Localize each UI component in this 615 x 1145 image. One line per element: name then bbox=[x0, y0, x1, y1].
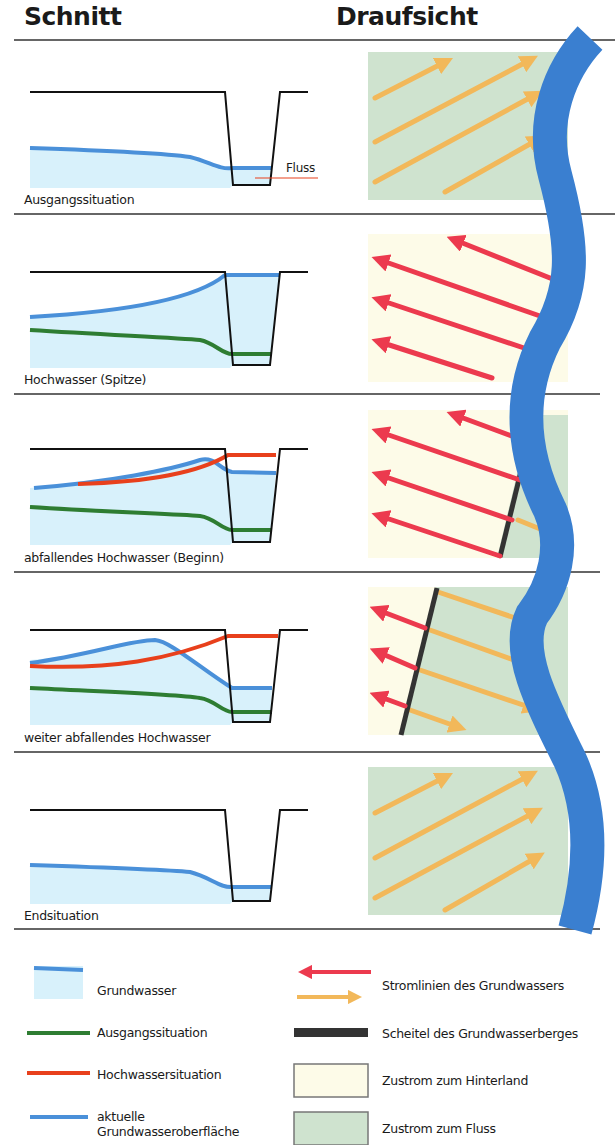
streamline-arrows-icon bbox=[297, 972, 371, 997]
crest-bar-icon bbox=[294, 1028, 368, 1037]
legend-label-hinterland: Zustrom zum Hinterland bbox=[382, 1073, 528, 1088]
groundwater-surface-icon bbox=[34, 968, 83, 970]
river-swatch-icon bbox=[294, 1112, 368, 1145]
legend-label-fluss: Zustrom zum Fluss bbox=[382, 1121, 496, 1136]
hinterland-swatch-icon bbox=[294, 1064, 368, 1097]
legend-label-stromlinien: Stromlinien des Grundwassers bbox=[382, 978, 564, 993]
caption-panel-1: Ausgangssituation bbox=[24, 192, 134, 207]
caption-panel-3: abfallendes Hochwasser (Beginn) bbox=[24, 550, 224, 565]
section-panel-5 bbox=[30, 810, 308, 904]
caption-panel-4: weiter abfallendes Hochwasser bbox=[24, 730, 210, 745]
section-panel-4 bbox=[30, 630, 308, 725]
section-panel-2 bbox=[30, 272, 308, 368]
caption-panel-2: Hochwasser (Spitze) bbox=[24, 372, 146, 387]
legend-label-grundwasser: Grundwasser bbox=[97, 983, 176, 998]
plan-panel-5 bbox=[368, 767, 568, 915]
legend-label-ausgangssituation: Ausgangssituation bbox=[97, 1025, 207, 1040]
section-panel-3 bbox=[30, 449, 308, 545]
caption-panel-5: Endsituation bbox=[24, 908, 99, 923]
legend-label-hochwassersituation: Hochwassersituation bbox=[97, 1067, 221, 1082]
legend-label-aktuelle-oberflaeche: aktuelle Grundwasseroberfläche bbox=[97, 1109, 247, 1139]
river-label: Fluss bbox=[286, 161, 315, 175]
legend-label-scheitel: Scheitel des Grundwasserberges bbox=[382, 1026, 578, 1041]
section-panel-1 bbox=[30, 92, 318, 188]
